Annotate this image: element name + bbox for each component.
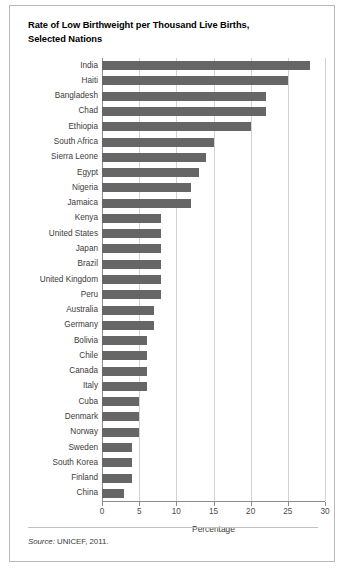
bar: [102, 474, 132, 483]
category-label: Haiti: [10, 75, 98, 87]
tick-30: [325, 502, 326, 506]
bar-row: [102, 306, 325, 315]
category-label: China: [10, 487, 98, 499]
source-note: Source: UNICEF, 2011.: [28, 537, 108, 546]
bar: [102, 351, 147, 360]
category-label: South Korea: [10, 457, 98, 469]
bar-row: [102, 367, 325, 376]
gridline-30: [325, 58, 326, 501]
chart-title-line-1: Rate of Low Birthweight per Thousand Liv…: [28, 18, 318, 32]
bar: [102, 321, 154, 330]
footer-divider: [28, 527, 318, 528]
bar: [102, 397, 139, 406]
category-label: United States: [10, 228, 98, 240]
bar-row: [102, 412, 325, 421]
bar: [102, 229, 161, 238]
category-label: Norway: [10, 426, 98, 438]
tick-label-0: 0: [100, 507, 105, 516]
category-label: Ethiopia: [10, 121, 98, 133]
category-label: Finland: [10, 472, 98, 484]
bar: [102, 153, 206, 162]
figure-panel: Rate of Low Birthweight per Thousand Liv…: [9, 5, 335, 562]
bar: [102, 336, 147, 345]
bar: [102, 76, 288, 85]
bar: [102, 199, 191, 208]
bar-row: [102, 321, 325, 330]
bar: [102, 306, 154, 315]
bar: [102, 61, 310, 70]
bar-row: [102, 183, 325, 192]
bar-row: [102, 428, 325, 437]
bar-row: [102, 168, 325, 177]
plot-area: 051015202530 Percentage: [102, 58, 325, 501]
category-label: Bolivia: [10, 335, 98, 347]
bar: [102, 489, 124, 498]
bar: [102, 367, 147, 376]
category-label: Italy: [10, 380, 98, 392]
tick-10: [176, 502, 177, 506]
category-label: United Kingdom: [10, 274, 98, 286]
bar-row: [102, 489, 325, 498]
category-label: Denmark: [10, 411, 98, 423]
category-label: Canada: [10, 365, 98, 377]
bar-row: [102, 336, 325, 345]
bar: [102, 244, 161, 253]
category-label: Peru: [10, 289, 98, 301]
tick-label-10: 10: [172, 507, 181, 516]
bar-row: [102, 443, 325, 452]
bar-row: [102, 244, 325, 253]
category-label: Bangladesh: [10, 90, 98, 102]
category-label: Germany: [10, 319, 98, 331]
bar: [102, 92, 266, 101]
bar-row: [102, 138, 325, 147]
category-label: Chile: [10, 350, 98, 362]
bar-row: [102, 397, 325, 406]
bar: [102, 382, 147, 391]
tick-label-20: 20: [246, 507, 255, 516]
bar-row: [102, 76, 325, 85]
bar-row: [102, 260, 325, 269]
category-label: Jamaica: [10, 197, 98, 209]
tick-5: [139, 502, 140, 506]
tick-25: [288, 502, 289, 506]
category-label: Japan: [10, 243, 98, 255]
category-label: Sweden: [10, 442, 98, 454]
tick-15: [214, 502, 215, 506]
bar: [102, 428, 139, 437]
bar: [102, 122, 251, 131]
bar: [102, 138, 214, 147]
bar-row: [102, 122, 325, 131]
tick-label-25: 25: [283, 507, 292, 516]
bar-row: [102, 92, 325, 101]
x-axis-title: Percentage: [102, 524, 325, 534]
bar-row: [102, 229, 325, 238]
tick-label-30: 30: [320, 507, 329, 516]
x-axis-tick-labels: 051015202530: [102, 507, 325, 521]
bar: [102, 443, 132, 452]
bar-row: [102, 153, 325, 162]
bar: [102, 260, 161, 269]
bar-row: [102, 61, 325, 70]
tick-20: [251, 502, 252, 506]
category-axis-labels: IndiaHaitiBangladeshChadEthiopiaSouth Af…: [10, 58, 98, 501]
bar: [102, 214, 161, 223]
tick-label-5: 5: [137, 507, 142, 516]
category-label: Nigeria: [10, 182, 98, 194]
tick-label-15: 15: [209, 507, 218, 516]
category-label: Chad: [10, 105, 98, 117]
chart-title-line-2: Selected Nations: [28, 32, 318, 46]
category-label: South Africa: [10, 136, 98, 148]
bar-row: [102, 275, 325, 284]
category-label: Cuba: [10, 396, 98, 408]
source-label: Source:: [28, 537, 55, 546]
tick-0: [102, 502, 103, 506]
bar: [102, 168, 199, 177]
bar: [102, 412, 139, 421]
category-label: Egypt: [10, 167, 98, 179]
category-label: Brazil: [10, 258, 98, 270]
bar-row: [102, 290, 325, 299]
bar-row: [102, 199, 325, 208]
bar: [102, 183, 191, 192]
bar-row: [102, 214, 325, 223]
bar-row: [102, 474, 325, 483]
